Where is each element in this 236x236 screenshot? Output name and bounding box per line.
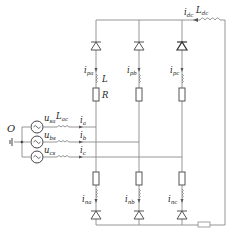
bottom-element <box>198 222 210 227</box>
label-ib: ib <box>80 130 87 141</box>
phase-column-a <box>91 20 101 225</box>
label-inb: inb <box>125 194 135 205</box>
label-r: R <box>101 90 109 100</box>
label-ic: ic <box>80 145 86 156</box>
phase-column-c <box>177 20 187 225</box>
label-ldc: Ldc <box>195 5 208 16</box>
dc-inductor <box>200 18 220 20</box>
circuit-diagram: O usa Lac ia ubs ib ucs ic ipa L R ipb i… <box>0 0 236 236</box>
label-inc: inc <box>168 194 177 205</box>
label-ia: ia <box>80 115 86 126</box>
ac-sources <box>10 121 182 163</box>
idc-arrow-icon <box>193 18 198 22</box>
node-o-label: O <box>7 123 15 134</box>
label-ubs: ubs <box>44 130 56 141</box>
label-ipc: ipc <box>170 65 179 77</box>
label-ipb: ipb <box>127 65 137 77</box>
label-lac: Lac <box>55 111 68 122</box>
label-ipa: ipa <box>84 65 94 77</box>
label-ucs: ucs <box>44 145 56 156</box>
label-ina: ina <box>82 194 92 205</box>
phase-column-b <box>134 20 144 225</box>
label-usa: usa <box>44 113 56 124</box>
label-l: L <box>101 74 108 84</box>
label-idc: idc <box>184 7 193 18</box>
